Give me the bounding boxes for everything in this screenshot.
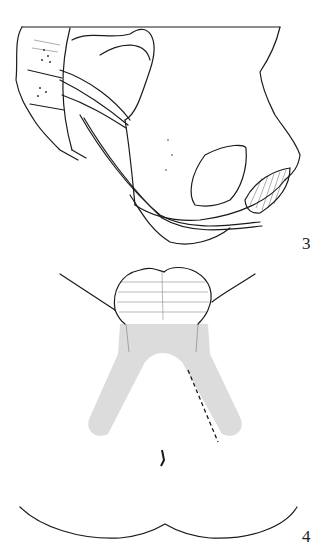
figure-4-label: 4: [302, 528, 311, 545]
figure-3-illustration: 3: [0, 0, 329, 262]
figure-4-illustration: 4: [0, 262, 329, 559]
figure-3-label: 3: [302, 235, 311, 252]
perineal-view-drawing: [0, 262, 329, 559]
pelvis-lateral-drawing: [0, 0, 329, 262]
